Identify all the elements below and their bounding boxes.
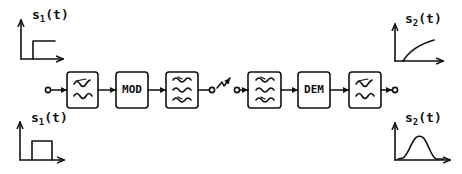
output-step-label: s2(t) [405,11,442,28]
output-step-response-graph [395,24,443,61]
input-step-graph [21,20,63,59]
modulator-label: MOD [116,83,148,96]
output-pulse-label: s2(t) [405,110,442,127]
input-terminal [45,87,50,92]
exponential-waveform [403,40,434,61]
bandpass-filter-2 [248,72,281,108]
radio-link-icon [217,78,230,88]
bandpass-filter-1 [166,72,198,108]
signal-chain-diagram [0,0,462,174]
input-pulse-graph [20,122,64,160]
input-step-label: s1(t) [32,7,69,24]
input-pulse-label: s1(t) [31,110,68,127]
step-waveform [33,41,55,59]
rx-terminal [234,87,239,92]
pulse-waveform [32,141,52,160]
smoothed-pulse-waveform [398,136,444,159]
demodulator-label: DEM [298,83,330,96]
tx-terminal [209,87,214,92]
output-terminal [392,87,397,92]
lowpass-filter-1 [67,72,98,108]
lowpass-wave-bottom [74,94,92,99]
output-pulse-response-graph [395,123,450,160]
lowpass-filter-2 [349,72,381,108]
